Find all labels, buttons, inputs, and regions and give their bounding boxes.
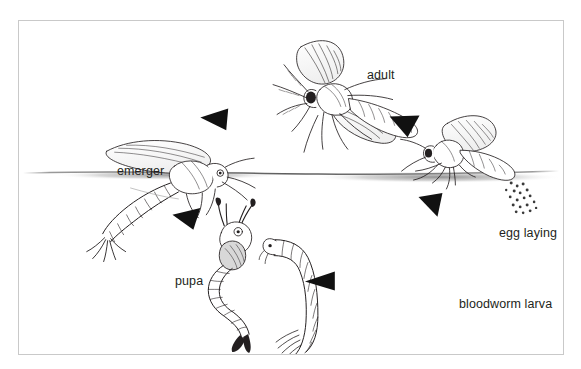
illustration-panel: adult emerger egg laying pupa bloodworm … [18, 20, 564, 355]
egg-cluster [505, 182, 537, 215]
label-bloodworm-larva: bloodworm larva [459, 297, 552, 311]
emerger-tail-tuft [87, 238, 126, 262]
larva-prolegs [276, 330, 301, 354]
adult-wing-upper [297, 41, 344, 84]
pupa-tail-paddles [232, 334, 251, 353]
label-egg-laying: egg laying [499, 226, 557, 240]
label-emerger: emerger [117, 164, 164, 178]
pupa-abdomen-segments [208, 271, 246, 330]
adult-midge-figure [273, 41, 418, 153]
diagram-stage: adult emerger egg laying pupa bloodworm … [0, 0, 581, 369]
arrow-emerger-to-adult [200, 108, 228, 130]
arrow-egg-laying-to-larva [419, 193, 443, 217]
label-adult: adult [367, 68, 395, 82]
bloodworm-larva-figure [259, 239, 327, 354]
pupa-figure [208, 197, 255, 353]
arrow-pupa-to-emerger [172, 208, 200, 230]
arrow-larva-to-pupa [305, 271, 335, 290]
label-pupa: pupa [175, 274, 203, 288]
